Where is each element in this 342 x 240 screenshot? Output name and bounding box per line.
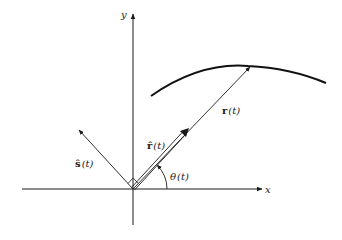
r-vector-label: r(t) <box>222 105 240 116</box>
theta-arg: (t) <box>177 171 189 182</box>
polar-unit-vectors-diagram: x y r(t) r̂(t) ŝ(t) θ(t) <box>0 0 342 240</box>
theta-symbol: θ <box>170 171 176 182</box>
y-axis-label: y <box>120 9 127 20</box>
trajectory-curve <box>151 66 326 96</box>
r-symbol: r <box>222 105 228 116</box>
theta-angle-arc <box>157 165 167 189</box>
s-hat-arg: (t) <box>82 158 94 169</box>
s-hat-symbol: ŝ <box>75 158 81 169</box>
x-axis-label: x <box>265 184 271 195</box>
r-vector-arrow <box>133 67 250 189</box>
r-hat-arg: (t) <box>153 140 165 151</box>
r-hat-vector-label: r̂(t) <box>147 140 165 151</box>
s-hat-vector-label: ŝ(t) <box>75 158 94 169</box>
r-arg: (t) <box>228 105 240 116</box>
r-hat-symbol: r̂ <box>147 140 153 151</box>
theta-label: θ(t) <box>170 171 189 182</box>
